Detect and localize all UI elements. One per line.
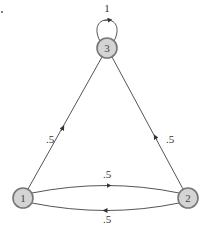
node-3: 3 — [97, 38, 117, 58]
edge-2-1 — [32, 203, 179, 211]
edge-label-1-2: .5 — [103, 168, 112, 180]
edge-label-3-3: 1 — [104, 2, 110, 14]
node-label-2: 2 — [185, 192, 191, 204]
dot-mark — [1, 11, 3, 13]
node-label-1: 1 — [20, 192, 26, 204]
edge-1-3 — [28, 57, 102, 189]
edge-label-2-3: .5 — [166, 133, 175, 145]
edge-label-2-1: .5 — [103, 213, 112, 225]
edge-label-1-3: .5 — [46, 133, 55, 145]
node-label-3: 3 — [104, 42, 110, 54]
node-2: 2 — [178, 188, 198, 208]
node-1: 1 — [13, 188, 33, 208]
edge-2-3 — [112, 57, 183, 189]
markov-diagram: 1 .5 .5 .5 .5 3 1 2 — [0, 0, 204, 226]
edge-1-2 — [32, 186, 179, 194]
